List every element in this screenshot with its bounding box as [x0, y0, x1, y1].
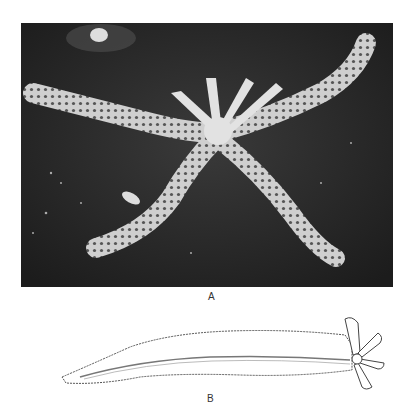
starfish-photograph	[21, 23, 393, 287]
starfish-photo-illustration	[21, 23, 393, 287]
arm-drawing-illustration	[60, 315, 390, 395]
panel-label-b: B	[207, 393, 214, 404]
starfish-arm-drawing	[60, 315, 390, 395]
panel-label-a: A	[208, 291, 215, 302]
